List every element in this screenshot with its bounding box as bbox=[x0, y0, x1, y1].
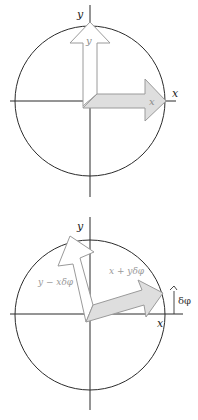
top-diagram: y x y x bbox=[10, 5, 179, 197]
delta-phi-label: δφ bbox=[178, 295, 191, 306]
rotation-diagram: y x y x x + yδφ y − xδφ y x δφ bbox=[0, 0, 198, 420]
y-arrow-label-top: y bbox=[85, 35, 92, 46]
bottom-diagram: x + yδφ y − xδφ y x δφ bbox=[10, 217, 191, 410]
x-axis-label-top: x bbox=[172, 87, 179, 100]
x-arrow-label-bottom: x + yδφ bbox=[109, 266, 145, 276]
x-axis-label-bottom: x bbox=[157, 317, 164, 330]
angle-arrow-icon bbox=[170, 286, 177, 290]
x-arrow-bottom bbox=[86, 280, 163, 322]
y-arrow-label-bottom: y − xδφ bbox=[37, 277, 74, 287]
y-axis-label-bottom: y bbox=[76, 220, 84, 233]
x-arrow-label-top: x bbox=[149, 96, 155, 107]
y-axis-label-top: y bbox=[76, 8, 84, 21]
